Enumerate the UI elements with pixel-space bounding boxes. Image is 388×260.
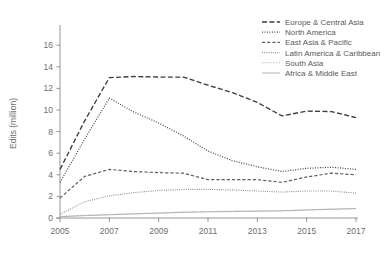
chart-canvas: 0246810121416200520072009201120132015201… [0, 0, 388, 260]
x-tick-label: 2015 [297, 226, 316, 236]
legend-label-5: Africa & Middle East [285, 69, 358, 78]
x-tick-label: 2009 [149, 226, 168, 236]
y-tick-label: 4 [48, 170, 53, 180]
line-chart: 0246810121416200520072009201120132015201… [0, 0, 388, 260]
legend-label-3: Latin America & Caribbean [285, 49, 380, 58]
y-tick-label: 0 [48, 213, 53, 223]
y-tick-label: 12 [44, 83, 54, 93]
y-tick-label: 14 [44, 62, 54, 72]
legend-label-1: North America [285, 28, 336, 37]
y-tick-label: 10 [44, 105, 54, 115]
legend-label-0: Europe & Central Asia [285, 18, 364, 27]
legend-label-2: East Asia & Pacific [285, 38, 352, 47]
series-line-0 [60, 77, 356, 170]
series-line-2 [60, 169, 356, 198]
series-line-5 [60, 209, 356, 217]
x-tick-label: 2017 [347, 226, 366, 236]
series-line-3 [60, 189, 356, 214]
y-axis-title: Edits (million) [8, 98, 18, 149]
y-tick-label: 8 [48, 127, 53, 137]
y-tick-label: 16 [44, 40, 54, 50]
x-tick-label: 2005 [51, 226, 70, 236]
y-tick-label: 2 [48, 191, 53, 201]
legend-label-4: South Asia [285, 59, 324, 68]
y-tick-label: 6 [48, 148, 53, 158]
x-tick-label: 2013 [248, 226, 267, 236]
x-tick-label: 2011 [199, 226, 218, 236]
x-tick-label: 2007 [100, 226, 119, 236]
